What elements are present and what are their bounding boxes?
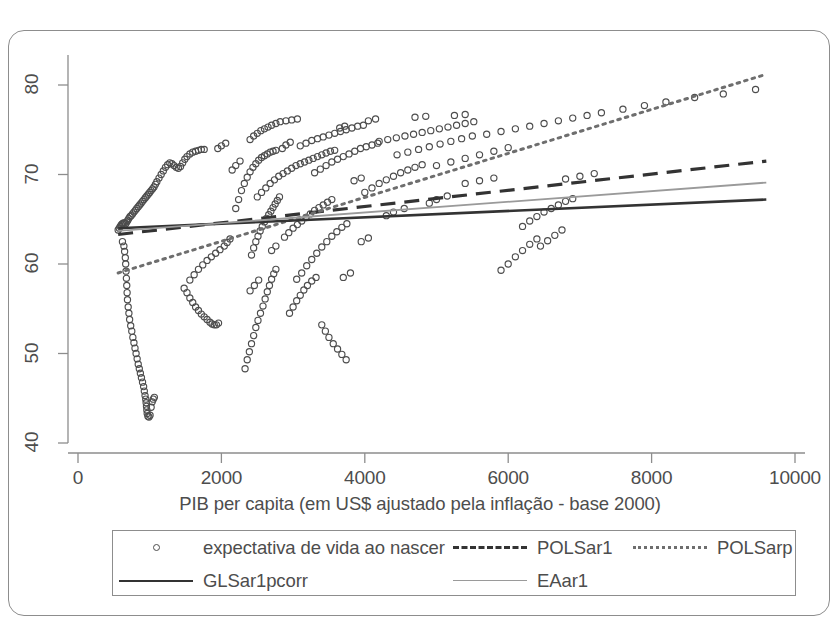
data-series-group <box>115 74 766 420</box>
legend-label-polsar1: POLSar1 <box>537 537 612 559</box>
legend-row-2: GLSar1pcorr EAar1 <box>113 564 795 597</box>
y-tick-label: 80 <box>21 64 43 104</box>
solid-gray-line-icon <box>453 571 527 591</box>
legend-label-scatter: expectativa de vida ao nascer <box>203 537 445 559</box>
x-tick-label: 2000 <box>161 467 281 489</box>
y-tick-label: 40 <box>21 422 43 462</box>
legend-item-glsar1pcorr: GLSar1pcorr <box>119 564 308 597</box>
x-axis-title: PIB per capita (em US$ ajustado pela inf… <box>0 493 840 515</box>
x-tick-label: 4000 <box>305 467 425 489</box>
scatter-marker-icon <box>119 538 193 558</box>
legend-item-scatter: expectativa de vida ao nascer <box>119 531 445 564</box>
scatter-series <box>115 86 759 420</box>
axes-group <box>58 55 805 463</box>
legend-label-eaar1: EAar1 <box>537 570 588 592</box>
legend-row-1: expectativa de vida ao nascer POLSar1 PO… <box>113 531 795 564</box>
legend-item-polsar1: POLSar1 <box>453 531 612 564</box>
solid-black-line-icon <box>119 571 193 591</box>
x-tick-label: 0 <box>18 467 138 489</box>
x-tick-label: 8000 <box>592 467 712 489</box>
y-tick-label: 70 <box>21 154 43 194</box>
x-tick-label: 6000 <box>448 467 568 489</box>
y-tick-label: 60 <box>21 243 43 283</box>
legend-label-polsarp: POLSarp <box>717 537 792 559</box>
chart-legend: expectativa de vida ao nascer POLSar1 PO… <box>112 530 796 596</box>
y-tick-label: 50 <box>21 333 43 373</box>
legend-item-polsarp: POLSarp <box>633 531 792 564</box>
dashed-line-icon <box>453 538 527 558</box>
legend-label-glsar1pcorr: GLSar1pcorr <box>203 570 308 592</box>
legend-item-eaar1: EAar1 <box>453 564 588 597</box>
x-tick-label: 10000 <box>735 467 840 489</box>
dotted-line-icon <box>633 538 707 558</box>
fit-line-eaar1 <box>118 183 766 231</box>
chart-figure: 4050607080 0200040006000800010000 PIB pe… <box>0 0 840 626</box>
